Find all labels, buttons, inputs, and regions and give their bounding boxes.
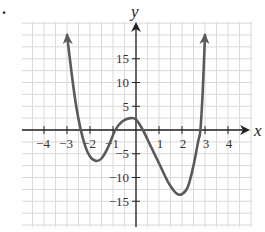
x-tick-label: 4 xyxy=(226,136,233,151)
y-tick-label: −10 xyxy=(109,170,129,185)
y-axis-label: y xyxy=(129,2,139,21)
x-tick-label: 2 xyxy=(180,136,187,151)
x-tick-label: −3 xyxy=(59,136,73,151)
x-tick-label: 1 xyxy=(157,136,164,151)
x-tick-label: 3 xyxy=(203,136,210,151)
y-tick-label: 15 xyxy=(116,51,129,66)
y-tick-label: 10 xyxy=(116,75,129,90)
y-tick-label: −5 xyxy=(115,146,129,161)
y-tick-label: −15 xyxy=(109,194,129,209)
function-graph: −4−3−2−1123415105−5−10−15 x y xyxy=(0,0,265,232)
x-axis-label: x xyxy=(253,121,262,140)
grid-lines xyxy=(22,22,252,227)
y-tick-label: 5 xyxy=(123,99,130,114)
x-tick-label: −4 xyxy=(36,136,50,151)
